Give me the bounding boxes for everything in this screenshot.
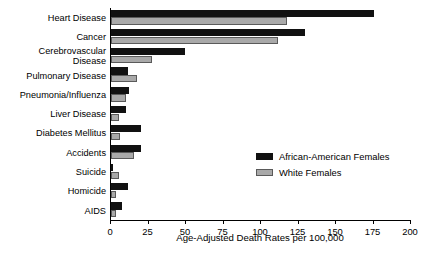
bar-1-6 xyxy=(111,133,120,140)
x-tick-125 xyxy=(298,220,299,224)
x-tick-100 xyxy=(260,220,261,224)
bar-0-3 xyxy=(111,67,128,74)
bar-1-2 xyxy=(111,56,152,63)
category-label-8: Suicide xyxy=(0,168,106,178)
category-label-3: Pulmonary Disease xyxy=(0,72,106,82)
plot-area: 0255075100125150175200 xyxy=(110,8,410,220)
x-tick-0 xyxy=(110,220,111,224)
x-tick-175 xyxy=(373,220,374,224)
legend-swatch-icon-1 xyxy=(256,169,273,177)
category-label-10: AIDS xyxy=(0,207,106,217)
bar-0-8 xyxy=(111,164,113,171)
x-tick-150 xyxy=(335,220,336,224)
chart-root: Heart DiseaseCancerCerebrovascular Disea… xyxy=(0,0,428,267)
bar-1-1 xyxy=(111,37,278,44)
bar-0-4 xyxy=(111,87,129,94)
category-label-7: Accidents xyxy=(0,149,106,159)
x-tick-25 xyxy=(148,220,149,224)
bar-0-2 xyxy=(111,48,185,55)
bar-0-7 xyxy=(111,145,141,152)
bar-1-8 xyxy=(111,172,119,179)
bar-1-9 xyxy=(111,191,116,198)
bar-0-9 xyxy=(111,183,128,190)
bar-1-4 xyxy=(111,94,126,101)
category-label-1: Cancer xyxy=(0,33,106,43)
bar-1-7 xyxy=(111,152,134,159)
bar-0-0 xyxy=(111,10,374,17)
bar-1-10 xyxy=(111,210,116,217)
legend-label-0: African-American Females xyxy=(279,151,389,162)
bar-0-6 xyxy=(111,125,141,132)
bar-1-3 xyxy=(111,75,137,82)
category-label-0: Heart Disease xyxy=(0,14,106,24)
legend-label-1: White Females xyxy=(279,167,342,178)
x-tick-75 xyxy=(223,220,224,224)
bar-0-5 xyxy=(111,106,126,113)
category-label-4: Pneumonia/Influenza xyxy=(0,91,106,101)
bar-1-0 xyxy=(111,17,287,24)
legend: African-American Females White Females xyxy=(256,151,389,183)
category-label-6: Diabetes Mellitus xyxy=(0,129,106,139)
legend-swatch-icon-0 xyxy=(256,153,273,161)
legend-item-0: African-American Females xyxy=(256,151,389,162)
x-tick-200 xyxy=(410,220,411,224)
bar-0-10 xyxy=(111,202,122,209)
x-tick-50 xyxy=(185,220,186,224)
category-label-9: Homicide xyxy=(0,187,106,197)
category-label-5: Liver Disease xyxy=(0,110,106,120)
legend-item-1: White Females xyxy=(256,167,389,178)
bar-1-5 xyxy=(111,114,119,121)
x-axis-title: Age-Adjusted Death Rates per 100,000 xyxy=(110,232,410,243)
bar-0-1 xyxy=(111,29,305,36)
category-label-2: Cerebrovascular Disease xyxy=(0,47,106,66)
